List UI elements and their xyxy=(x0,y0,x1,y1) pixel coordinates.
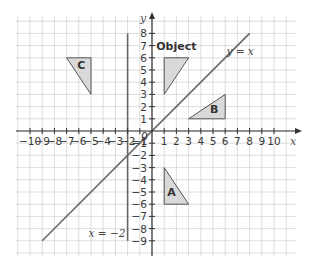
y-tick-label: −5 xyxy=(132,186,147,198)
y-tick-label: −8 xyxy=(132,223,147,235)
y-tick-label: −7 xyxy=(132,210,147,222)
grid-canvas: y = xx = −2 ObjectBAC −10−9−8−7−6−5−4−3−… xyxy=(0,0,309,266)
y-tick-label: 4 xyxy=(140,76,147,88)
y-tick-label: −3 xyxy=(132,162,147,174)
origin-label: 0 xyxy=(141,130,148,142)
coordinate-grid-diagram: y = xx = −2 ObjectBAC −10−9−8−7−6−5−4−3−… xyxy=(0,0,309,266)
y-tick-label: 1 xyxy=(140,113,147,125)
y-equals-x-label: y = x xyxy=(225,45,253,57)
x-tick-label: 6 xyxy=(222,135,229,147)
triangle-c-label: C xyxy=(77,59,85,72)
y-tick-label: 5 xyxy=(140,64,147,76)
y-tick-label: 6 xyxy=(140,52,147,64)
object-label: Object xyxy=(156,40,196,53)
y-tick-label: −6 xyxy=(132,198,148,210)
triangle-b-label: B xyxy=(210,103,218,116)
x-axis-label: x xyxy=(290,135,297,148)
y-tick-label: −4 xyxy=(132,174,148,186)
y-tick-label: 3 xyxy=(140,88,147,100)
y-tick-label: −9 xyxy=(132,235,147,247)
triangle-a-label: A xyxy=(167,186,176,199)
x-tick-label: 10 xyxy=(267,135,280,147)
x-tick-label: 7 xyxy=(234,135,241,147)
x-tick-label: 4 xyxy=(197,135,204,147)
y-tick-label: 2 xyxy=(140,101,147,113)
x-tick-label: 8 xyxy=(246,135,253,147)
y-axis-arrow-icon xyxy=(149,12,155,19)
y-tick-label: 7 xyxy=(140,40,147,52)
x-equals-minus-2-label: x = −2 xyxy=(89,227,126,239)
x-axis-arrow-icon xyxy=(295,128,302,134)
y-tick-label: 8 xyxy=(140,27,147,39)
x-tick-label: 5 xyxy=(210,135,217,147)
x-tick-label: 1 xyxy=(161,135,168,147)
x-tick-label: 3 xyxy=(185,135,192,147)
y-axis-label: y xyxy=(139,12,147,25)
y-tick-label: −2 xyxy=(132,149,147,161)
x-tick-label: 2 xyxy=(173,135,180,147)
x-tick-label: 9 xyxy=(258,135,265,147)
